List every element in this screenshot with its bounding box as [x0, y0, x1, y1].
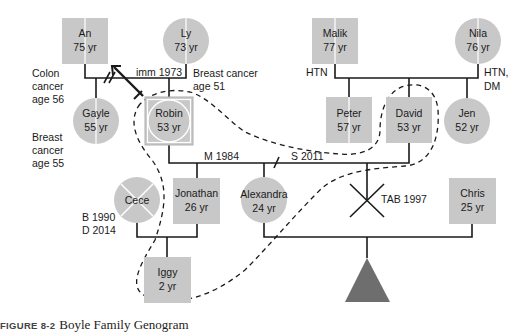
- person-name: Ly: [181, 27, 192, 39]
- person-nila[interactable]: Nila 76 yr: [455, 18, 501, 64]
- person-age: 57 yr: [337, 121, 361, 133]
- couple-line-alexandra-chris: [264, 223, 472, 237]
- figure-caption: FIGURE 8-2Boyle Family Genogram: [0, 315, 189, 333]
- person-age: 75 yr: [73, 41, 97, 53]
- person-name: Jonathan: [175, 187, 218, 199]
- person-age: 77 yr: [323, 41, 347, 53]
- person-name: An: [79, 27, 92, 39]
- person-name: David: [396, 107, 423, 119]
- pregnancy-triangle-icon: [345, 258, 390, 302]
- ly-condition-line1: Breast cancer: [193, 67, 258, 79]
- couple-line-malik-nila: [335, 64, 478, 78]
- immigration-label: imm 1973: [136, 66, 182, 78]
- person-iggy[interactable]: Iggy 2 yr: [144, 257, 191, 303]
- person-age: 53 yr: [397, 121, 421, 133]
- person-age: 52 yr: [455, 121, 479, 133]
- gayle-condition-line1: Breast: [32, 131, 62, 143]
- an-condition-line2: cancer: [32, 80, 64, 92]
- person-cece[interactable]: Cece: [114, 177, 160, 223]
- relationship-lines: [85, 64, 478, 258]
- person-name: Cece: [125, 194, 150, 206]
- person-name: Iggy: [158, 266, 179, 278]
- person-david[interactable]: David 53 yr: [386, 97, 432, 143]
- gayle-condition-line2: cancer: [32, 144, 64, 156]
- person-name: Peter: [336, 107, 362, 119]
- nila-condition-line2: DM: [484, 80, 500, 92]
- person-name: Robin: [155, 107, 183, 119]
- an-condition-line3: age 56: [32, 93, 64, 105]
- person-age: 26 yr: [185, 201, 209, 213]
- tab-label: TAB 1997: [381, 193, 427, 205]
- person-name: Malik: [323, 27, 348, 39]
- person-age: 2 yr: [159, 280, 177, 292]
- person-age: 53 yr: [157, 121, 181, 133]
- figure-title: Boyle Family Genogram: [59, 317, 188, 332]
- person-alexandra[interactable]: Alexandra 24 yr: [240, 177, 287, 223]
- person-an[interactable]: An 75 yr: [62, 18, 108, 64]
- person-jonathan[interactable]: Jonathan 26 yr: [173, 178, 220, 224]
- person-chris[interactable]: Chris 25 yr: [449, 178, 496, 224]
- nila-condition-line1: HTN,: [484, 66, 509, 78]
- person-malik[interactable]: Malik 77 yr: [312, 18, 358, 64]
- couple-line-cece-jonathan: [137, 223, 197, 237]
- person-peter[interactable]: Peter 57 yr: [326, 97, 372, 143]
- person-name: Chris: [460, 187, 485, 199]
- marriage-label: M 1984: [204, 150, 239, 162]
- person-age: 55 yr: [84, 121, 108, 133]
- person-age: 76 yr: [466, 41, 490, 53]
- person-age: 73 yr: [174, 41, 198, 53]
- person-name: Nila: [469, 27, 487, 39]
- person-ly[interactable]: Ly 73 yr: [163, 18, 209, 64]
- cece-birth: B 1990: [82, 211, 115, 223]
- person-age: 24 yr: [252, 202, 276, 214]
- person-name: Gayle: [82, 107, 110, 119]
- an-condition-line1: Colon: [32, 67, 60, 79]
- person-name: Alexandra: [240, 188, 287, 200]
- person-jen[interactable]: Jen 52 yr: [444, 98, 490, 144]
- person-robin[interactable]: Robin 53 yr: [145, 97, 193, 145]
- genogram: An 75 yr Ly 73 yr Malik 77 yr Nila 76 yr…: [0, 0, 529, 334]
- figure-number: FIGURE 8-2: [0, 320, 55, 331]
- person-gayle[interactable]: Gayle 55 yr: [73, 98, 119, 144]
- ly-condition-line2: age 51: [193, 80, 225, 92]
- person-age: 25 yr: [461, 201, 485, 213]
- cece-death: D 2014: [82, 224, 116, 236]
- gayle-condition-line3: age 55: [32, 157, 64, 169]
- malik-condition: HTN: [306, 66, 328, 78]
- separation-label: S 2011: [291, 150, 324, 162]
- person-name: Jen: [459, 107, 476, 119]
